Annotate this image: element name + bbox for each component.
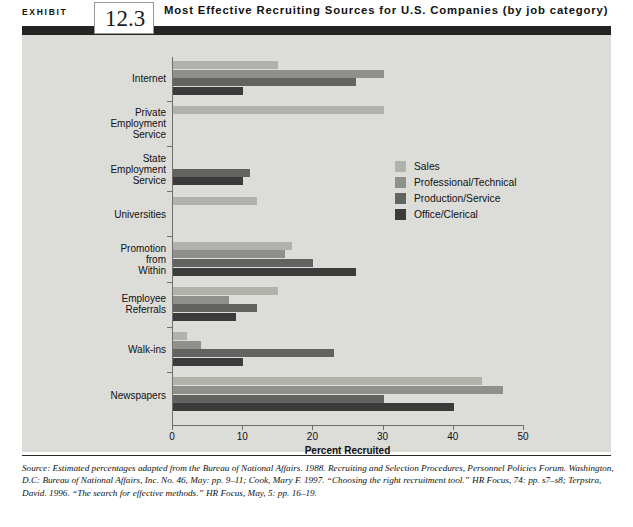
bar-employee-referrals-sales xyxy=(173,287,278,295)
y-axis-tick xyxy=(167,146,172,147)
legend-swatch-icon xyxy=(395,193,406,204)
category-label-line: Employment xyxy=(26,163,166,174)
category-label-walk-ins: Walk-ins xyxy=(26,344,166,355)
category-label-line: Employment xyxy=(26,118,166,129)
bar-state-employment-service-office-clerical xyxy=(173,177,243,185)
bar-employee-referrals-professional-technical xyxy=(173,296,229,304)
page-title: Most Effective Recruiting Sources for U.… xyxy=(164,4,608,16)
bar-walk-ins-sales xyxy=(173,332,187,340)
bar-newspapers-office-clerical xyxy=(173,403,454,411)
category-label-line: Universities xyxy=(26,208,166,219)
y-axis-tick xyxy=(167,101,172,102)
category-label-state-employment-service: StateEmploymentService xyxy=(26,152,166,185)
bar-walk-ins-office-clerical xyxy=(173,358,243,366)
bar-promotion-from-within-office-clerical xyxy=(173,268,356,276)
bar-promotion-from-within-production-service xyxy=(173,259,313,267)
bar-newspapers-sales xyxy=(173,377,482,385)
category-label-employee-referrals: EmployeeReferrals xyxy=(26,293,166,315)
bar-newspapers-professional-technical xyxy=(173,386,503,394)
bar-internet-sales xyxy=(173,61,278,69)
bar-employee-referrals-production-service xyxy=(173,304,257,312)
legend-label: Production/Service xyxy=(414,191,500,206)
bar-walk-ins-production-service xyxy=(173,349,334,357)
category-label-line: Private xyxy=(26,107,166,118)
bar-promotion-from-within-sales xyxy=(173,242,292,250)
exhibit-number-badge: 12.3 xyxy=(94,2,154,34)
category-label-promotion-from-within: PromotionfromWithin xyxy=(26,243,166,276)
x-tick-label-0: 0 xyxy=(169,431,175,442)
bar-employee-referrals-office-clerical xyxy=(173,313,236,321)
category-label-line: State xyxy=(26,152,166,163)
x-tick-20 xyxy=(312,425,313,430)
legend-swatch-icon xyxy=(395,209,406,220)
bar-internet-office-clerical xyxy=(173,87,243,95)
y-axis-tick xyxy=(167,191,172,192)
x-tick-label-50: 50 xyxy=(517,431,528,442)
x-tick-label-10: 10 xyxy=(237,431,248,442)
category-label-line: Promotion xyxy=(26,243,166,254)
category-label-line: Within xyxy=(26,265,166,276)
y-axis-tick xyxy=(167,236,172,237)
category-label-private-employment-service: PrivateEmploymentService xyxy=(26,107,166,140)
category-label-line: Walk-ins xyxy=(26,344,166,355)
bar-internet-production-service xyxy=(173,78,356,86)
x-tick-label-40: 40 xyxy=(447,431,458,442)
exhibit-label: EXHIBIT xyxy=(22,7,67,17)
x-tick-40 xyxy=(453,425,454,430)
x-tick-10 xyxy=(242,425,243,430)
bar-promotion-from-within-professional-technical xyxy=(173,250,285,258)
category-label-internet: Internet xyxy=(26,73,166,84)
bar-walk-ins-professional-technical xyxy=(173,341,201,349)
category-label-line: Service xyxy=(26,129,166,140)
legend-swatch-icon xyxy=(395,161,406,172)
bar-universities-sales xyxy=(173,197,257,205)
x-tick-50 xyxy=(523,425,524,430)
legend-label: Professional/Technical xyxy=(414,175,516,190)
x-tick-label-20: 20 xyxy=(307,431,318,442)
category-label-line: from xyxy=(26,254,166,265)
y-axis-tick xyxy=(167,327,172,328)
bar-private-employment-service-sales xyxy=(173,106,384,114)
source-note: Source: Estimated percentages adapted fr… xyxy=(22,462,615,499)
x-tick-label-30: 30 xyxy=(377,431,388,442)
x-axis-line xyxy=(172,425,523,426)
exhibit-number: 12.3 xyxy=(95,3,155,35)
category-label-line: Newspapers xyxy=(26,389,166,400)
x-tick-0 xyxy=(172,425,173,430)
category-label-line: Referrals xyxy=(26,304,166,315)
y-axis-category-labels: InternetPrivateEmploymentServiceStateEmp… xyxy=(22,35,166,452)
category-label-line: Internet xyxy=(26,73,166,84)
x-tick-30 xyxy=(383,425,384,430)
y-axis-tick xyxy=(167,372,172,373)
category-label-line: Service xyxy=(26,174,166,185)
bar-newspapers-production-service xyxy=(173,395,384,403)
category-label-newspapers: Newspapers xyxy=(26,389,166,400)
footer-divider xyxy=(22,455,611,456)
y-axis-tick xyxy=(167,282,172,283)
category-label-universities: Universities xyxy=(26,208,166,219)
bar-internet-professional-technical xyxy=(173,70,384,78)
category-label-line: Employee xyxy=(26,293,166,304)
legend-swatch-icon xyxy=(395,177,406,188)
bar-state-employment-service-production-service xyxy=(173,169,250,177)
legend-label: Office/Clerical xyxy=(414,207,478,222)
chart-panel: InternetPrivateEmploymentServiceStateEmp… xyxy=(22,35,611,452)
legend-label: Sales xyxy=(414,159,440,174)
